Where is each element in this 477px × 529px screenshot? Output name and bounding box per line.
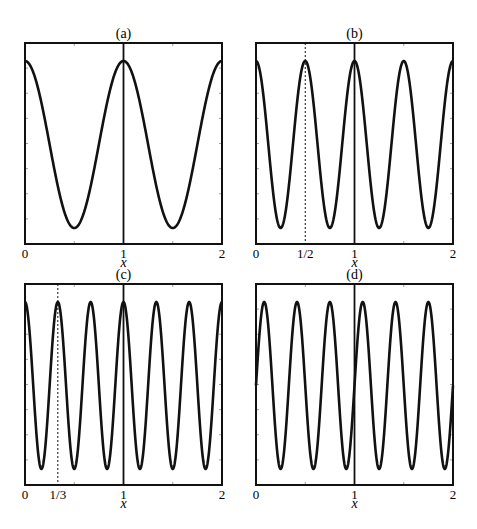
x-tick-label: 0 xyxy=(253,246,260,261)
panel-a: (a) 012 x xyxy=(22,26,226,270)
panel-c: (c) 01/312 x xyxy=(22,267,226,511)
panel-title: (a) xyxy=(116,26,132,42)
x-axis-label: x xyxy=(350,496,358,511)
x-tick-label: 2 xyxy=(219,246,226,261)
x-tick-label: 0 xyxy=(22,246,29,261)
figure: (a) 012 x (b) 01/212 x (c) 01/312 x (d) … xyxy=(0,0,477,529)
x-tick-label: 0 xyxy=(253,487,260,502)
panel-d: (d) 012 x xyxy=(253,267,457,511)
panel-b: (b) 01/212 x xyxy=(253,26,457,270)
x-tick-label: 1/2 xyxy=(297,246,314,261)
panel-title: (b) xyxy=(346,26,363,42)
x-tick-label: 2 xyxy=(450,246,457,261)
x-tick-label: 2 xyxy=(450,487,457,502)
panel-title: (d) xyxy=(346,267,363,283)
panel-title: (c) xyxy=(116,267,132,283)
x-tick-label: 0 xyxy=(22,487,29,502)
x-tick-label: 1/3 xyxy=(50,487,67,502)
x-tick-label: 2 xyxy=(219,487,226,502)
x-axis-label: x xyxy=(119,496,127,511)
